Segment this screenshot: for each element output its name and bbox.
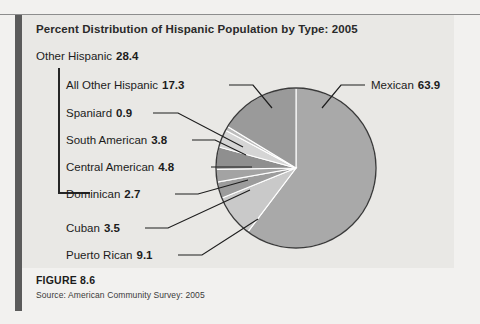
figure-page: Percent Distribution of Hispanic Populat…: [0, 0, 480, 324]
pie-slices: [216, 88, 376, 248]
figure-number: FIGURE 8.6: [36, 274, 95, 286]
figure-source: Source: American Community Survey: 2005: [36, 290, 205, 300]
